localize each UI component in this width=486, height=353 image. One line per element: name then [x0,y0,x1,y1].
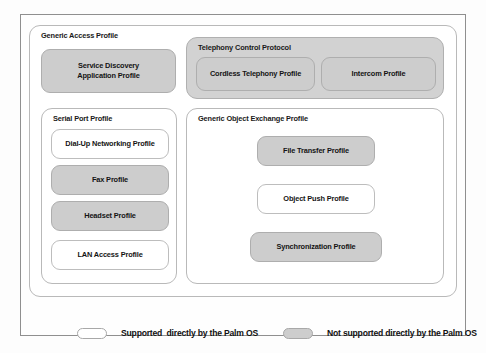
legend-label-supported: Supported directly by the Palm OS [121,328,258,338]
legend: Supported directly by the Palm OS Not su… [43,318,467,348]
group-label-generic-access-profile: Generic Access Profile [41,31,118,40]
profile-dial-up-networking: Dial-Up Networking Profile [51,129,169,159]
legend-label-unsupported: Not supported directly by the Palm OS [327,328,477,338]
profile-label-service-discovery-line2: Application Profile [77,71,139,80]
group-generic-object-exchange-profile: Generic Object Exchange Profile File Tra… [186,108,444,284]
group-telephony-control-protocol: Telephony Control Protocol Cordless Tele… [186,37,444,99]
profile-headset: Headset Profile [51,201,169,231]
profile-label-headset: Headset Profile [84,211,136,221]
profile-fax: Fax Profile [51,165,169,195]
diagram-outer-frame: Generic Access Profile Service Discovery… [20,14,466,336]
group-generic-access-profile: Generic Access Profile Service Discovery… [29,25,457,297]
profile-label-fax: Fax Profile [92,175,128,185]
profile-object-push: Object Push Profile [257,184,375,214]
legend-item-unsupported: Not supported directly by the Palm OS [283,318,477,348]
legend-item-supported: Supported directly by the Palm OS [77,318,258,348]
profile-service-discovery-application: Service Discovery Application Profile [41,49,176,93]
profile-label-cordless-telephony: Cordless Telephony Profile [210,69,301,79]
legend-swatch-unsupported-icon [283,328,313,339]
profile-label-dial-up-networking: Dial-Up Networking Profile [65,139,154,149]
diagram-canvas: Generic Access Profile Service Discovery… [0,0,486,353]
profile-label-service-discovery-line1: Service Discovery [78,61,139,70]
profile-cordless-telephony: Cordless Telephony Profile [196,57,315,91]
group-serial-port-profile: Serial Port Profile Dial-Up Networking P… [41,108,177,284]
group-label-generic-object-exchange-profile: Generic Object Exchange Profile [198,114,308,123]
profile-lan-access: LAN Access Profile [51,240,169,270]
profile-intercom: Intercom Profile [321,57,436,91]
profile-label-intercom: Intercom Profile [352,69,406,79]
profile-label-service-discovery: Service Discovery Application Profile [77,61,139,80]
profile-synchronization: Synchronization Profile [250,232,382,262]
group-label-serial-port-profile: Serial Port Profile [53,114,112,123]
profile-label-file-transfer: File Transfer Profile [283,146,349,156]
profile-label-object-push: Object Push Profile [283,194,348,204]
profile-file-transfer: File Transfer Profile [257,136,375,166]
legend-swatch-supported-icon [77,328,107,339]
profile-label-synchronization: Synchronization Profile [276,242,355,252]
profile-label-lan-access: LAN Access Profile [77,250,142,260]
group-label-telephony-control-protocol: Telephony Control Protocol [198,43,291,52]
